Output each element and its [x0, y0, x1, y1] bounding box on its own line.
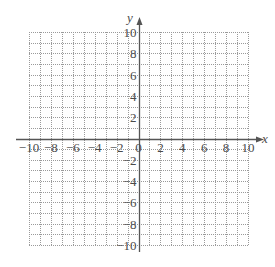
x-tick-label: 10	[242, 140, 255, 155]
x-tick-label: 8	[223, 140, 230, 155]
x-tick-label: 4	[179, 140, 186, 155]
x-tick-label: 6	[201, 140, 208, 155]
y-tick-label: 10	[124, 25, 137, 40]
y-axis-label: y	[125, 10, 133, 25]
x-tick-label: −4	[88, 140, 102, 155]
x-tick-label: −6	[66, 140, 80, 155]
x-tick-label: 2	[157, 140, 164, 155]
y-tick-label: −6	[123, 195, 137, 210]
y-tick-label: −2	[123, 153, 137, 168]
y-tick-label: −8	[123, 217, 137, 232]
x-tick-label: −10	[19, 140, 39, 155]
y-tick-label: −10	[116, 238, 136, 253]
y-tick-label: 6	[130, 68, 137, 83]
y-tick-label: 2	[130, 110, 137, 125]
coordinate-grid: −10−8−6−4−20246810−10−8−6−4−2246810 x y	[0, 0, 275, 267]
y-axis-arrow-icon	[137, 17, 143, 25]
x-tick-label: −8	[44, 140, 58, 155]
x-axis-label: x	[261, 131, 268, 146]
y-tick-label: 4	[130, 89, 137, 104]
x-tick-label: −2	[110, 140, 124, 155]
y-tick-label: 8	[130, 46, 137, 61]
y-tick-label: −4	[123, 174, 137, 189]
